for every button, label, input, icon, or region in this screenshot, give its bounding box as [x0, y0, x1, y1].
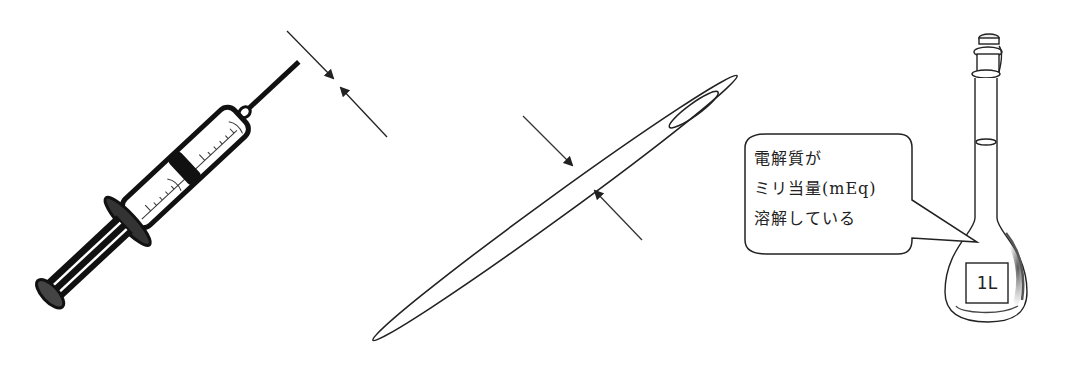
- callout-text: 電解質が ミリ当量(mEq) 溶解している: [754, 144, 924, 234]
- flask-volume-label: 1L: [966, 263, 1008, 303]
- callout-line-3: 溶解している: [754, 204, 924, 234]
- gauge-arrows-icon: [287, 31, 387, 137]
- diagram-canvas: 電解質が ミリ当量(mEq) 溶解している 1L: [0, 0, 1085, 373]
- syringe-icon: [22, 38, 320, 322]
- callout-line-1: 電解質が: [754, 144, 924, 174]
- needle-closeup-icon: [367, 67, 744, 349]
- callout-line-2: ミリ当量(mEq): [754, 174, 924, 204]
